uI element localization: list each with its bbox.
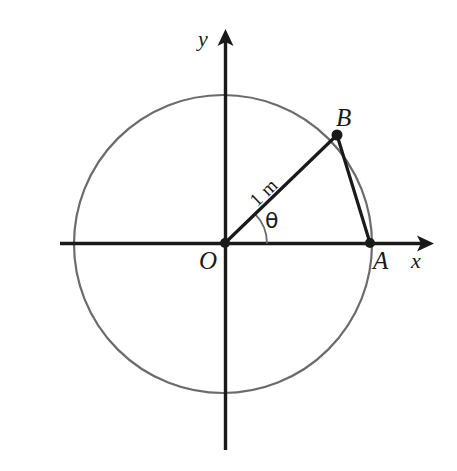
point-marker-O	[220, 238, 230, 248]
point-marker-B	[332, 130, 343, 141]
angle-label-theta: θ	[265, 210, 278, 232]
point-label-O: O	[199, 248, 217, 273]
point-label-B: B	[336, 105, 351, 130]
axis-label-y: y	[198, 28, 208, 50]
point-label-A: A	[373, 248, 388, 273]
geometry-figure: O A B x y θ 1 m	[0, 0, 457, 471]
figure-canvas	[0, 0, 457, 471]
axis-label-x: x	[411, 250, 421, 272]
chord-segment-AB	[337, 135, 370, 243]
